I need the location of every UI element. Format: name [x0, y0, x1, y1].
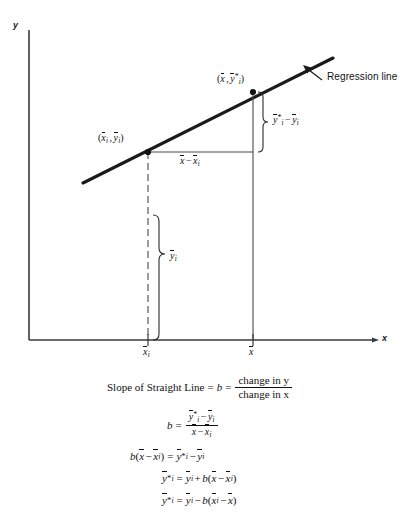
equation-1-equals-first: =	[204, 381, 216, 393]
equation-2-numerator: y*i−yi	[186, 410, 218, 425]
brace-vertical-difference	[258, 92, 268, 152]
point-label-upper-right: (x,y*i)	[217, 73, 244, 86]
equation-1-fraction: change in y change in x	[235, 374, 292, 401]
brace-ybar-i	[153, 215, 165, 340]
diagram-canvas	[0, 0, 414, 370]
equation-2-equals: =	[173, 419, 185, 431]
equation-line-2: b = y*i−yi x−xi	[167, 410, 219, 439]
point-marker-mean	[250, 89, 256, 95]
brace-label-horizontal-difference: x−xi	[180, 156, 200, 168]
x-axis-label: x	[382, 334, 387, 343]
point-marker-i	[145, 149, 151, 155]
brace-label-ybar-i: yi	[170, 251, 177, 263]
equation-1-denominator: change in x	[235, 388, 292, 401]
regression-diagram: y x Regression line (xi,yi) (x,y*i) y*i−…	[0, 0, 414, 370]
equation-line-5: y*i = yi − b(xi−x)	[162, 494, 237, 506]
equation-1-numerator: change in y	[235, 374, 292, 387]
y-axis-label: y	[13, 21, 18, 30]
tick-label-x-bar: x	[249, 347, 253, 357]
equation-2-denominator: x−xi	[189, 426, 215, 440]
derivation-equations: Slope of Straight Line = b = change in y…	[0, 372, 414, 517]
regression-line-label: Regression line	[327, 72, 397, 82]
equation-2-fraction: y*i−yi x−xi	[186, 410, 218, 439]
tick-label-x-i: xi	[143, 347, 150, 359]
point-label-lower-left: (xi,yi)	[98, 133, 123, 145]
equation-1-equals-second: =	[222, 381, 234, 393]
x-axis-arrow	[372, 337, 379, 342]
brace-label-vertical-difference: y*i−yi	[273, 114, 299, 127]
equation-line-1: Slope of Straight Line = b = change in y…	[107, 374, 293, 401]
equation-line-3: b(x−xi) = y*i−yi	[130, 450, 205, 462]
equation-1-lhs: Slope of Straight Line	[107, 381, 204, 393]
equation-line-4: y*i = yi + b(x−xi)	[162, 472, 237, 484]
